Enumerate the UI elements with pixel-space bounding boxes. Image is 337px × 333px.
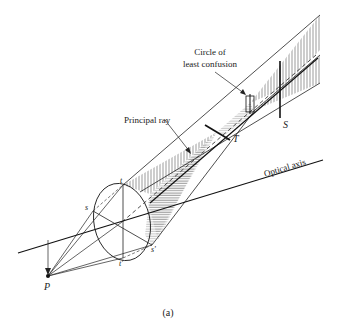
figure-caption: (a) xyxy=(162,307,173,319)
arrow-icon xyxy=(240,89,246,95)
ray-P-center xyxy=(48,222,122,276)
label-T: T xyxy=(233,133,240,144)
label-principal-ray: Principal ray xyxy=(124,115,171,125)
label-s-prime: s' xyxy=(151,245,156,254)
astigmatism-diagram: Circle of least confusion Principal ray … xyxy=(0,0,337,333)
label-circle-2: least confusion xyxy=(183,59,238,69)
principal-ray-solid xyxy=(150,58,318,203)
ray-P-t xyxy=(48,185,123,276)
ray-t-top xyxy=(123,15,320,185)
ray-upper-fan xyxy=(140,83,320,192)
label-s: s xyxy=(85,203,88,212)
point-P xyxy=(46,274,50,278)
label-t-prime: t' xyxy=(119,259,123,268)
label-P: P xyxy=(43,281,50,292)
label-optical-axis: Optical axis xyxy=(263,157,308,179)
mid-wedge xyxy=(217,103,255,135)
principal-ray-dashed xyxy=(122,55,316,222)
label-circle-1: Circle of xyxy=(194,47,226,57)
ray-P-sprime xyxy=(48,245,152,276)
ray-P-s xyxy=(48,211,93,276)
ray-P-tprime xyxy=(48,258,123,276)
circle-pointer xyxy=(215,72,245,94)
label-S: S xyxy=(283,119,288,130)
lens-dash-2 xyxy=(123,245,152,258)
